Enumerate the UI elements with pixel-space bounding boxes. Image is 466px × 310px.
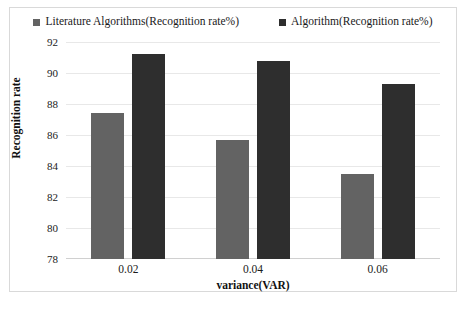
bar-0.02-series-2[interactable] xyxy=(132,54,165,259)
bar-0.06-series-1[interactable] xyxy=(341,174,374,259)
chart-legend: Literature Algorithms(Recognition rate%)… xyxy=(0,14,466,30)
x-tick-label-0.06: 0.06 xyxy=(368,263,388,275)
bar-0.02-series-1[interactable] xyxy=(91,113,124,259)
x-axis-tick-labels: 0.020.040.06 xyxy=(66,263,440,279)
chart-figure: Literature Algorithms(Recognition rate%)… xyxy=(0,0,466,310)
bar-series-container xyxy=(66,42,440,259)
y-axis-title: Recognition rate xyxy=(10,58,22,178)
legend-swatch-literature-algorithms xyxy=(33,19,40,26)
legend-label-algorithm: Algorithm(Recognition rate%) xyxy=(291,16,432,28)
x-tick-label-0.02: 0.02 xyxy=(118,263,138,275)
bar-group-0.02 xyxy=(66,42,191,259)
bar-group-0.06 xyxy=(315,42,440,259)
bar-group-0.04 xyxy=(191,42,316,259)
bar-0.06-series-2[interactable] xyxy=(382,84,415,259)
legend-label-literature-algorithms: Literature Algorithms(Recognition rate%) xyxy=(45,16,239,28)
bar-0.04-series-1[interactable] xyxy=(216,140,249,259)
legend-entry-algorithm: Algorithm(Recognition rate%) xyxy=(279,16,432,28)
legend-swatch-algorithm xyxy=(279,19,286,26)
plot-area xyxy=(66,42,440,259)
x-axis-title: variance(VAR) xyxy=(66,279,440,291)
legend-entry-literature-algorithms: Literature Algorithms(Recognition rate%) xyxy=(33,16,239,28)
bar-0.04-series-2[interactable] xyxy=(257,61,290,259)
x-tick-label-0.04: 0.04 xyxy=(243,263,263,275)
